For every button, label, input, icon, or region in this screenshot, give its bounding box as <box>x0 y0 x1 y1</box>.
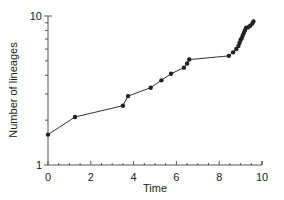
data-point-marker <box>149 86 153 90</box>
y-axis-label: Number of lineages <box>7 42 19 138</box>
data-point-marker <box>121 104 125 108</box>
y-tick-label: 1 <box>36 159 42 171</box>
x-tick-label: 0 <box>45 171 51 183</box>
data-point-marker <box>182 65 186 69</box>
data-point-marker <box>187 57 191 61</box>
x-axis-label: Time <box>143 182 167 194</box>
x-tick-label: 10 <box>256 171 268 183</box>
x-tick-label: 6 <box>173 171 179 183</box>
x-tick-label: 8 <box>216 171 222 183</box>
x-tick-label: 4 <box>131 171 137 183</box>
data-point-marker <box>159 78 163 82</box>
y-tick-label: 10 <box>30 10 42 22</box>
axes <box>44 16 262 165</box>
data-point-marker <box>126 94 130 98</box>
data-point-marker <box>231 50 235 54</box>
data-point-marker <box>73 115 77 119</box>
tick-labels: 0246810110 <box>30 10 268 183</box>
data-series <box>46 19 256 137</box>
series-line <box>48 21 253 134</box>
chart: 0246810110 Time Number of lineages <box>0 0 284 200</box>
x-tick-label: 2 <box>88 171 94 183</box>
data-point-marker <box>169 71 173 75</box>
data-point-marker <box>227 54 231 58</box>
data-point-marker <box>185 61 189 65</box>
data-point-marker <box>251 19 255 23</box>
data-point-marker <box>46 132 50 136</box>
